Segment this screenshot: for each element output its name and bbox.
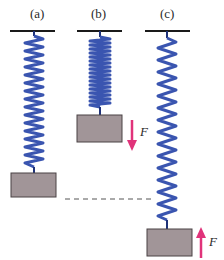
force-label-c: F bbox=[209, 234, 217, 250]
panel-c bbox=[145, 31, 206, 258]
spring-b bbox=[90, 37, 110, 107]
force-arrow-down-icon bbox=[127, 120, 137, 151]
block-c bbox=[147, 229, 192, 256]
force-label-b: F bbox=[140, 124, 148, 140]
block-a bbox=[11, 173, 56, 197]
spring-diagram bbox=[0, 0, 224, 260]
spring-c bbox=[158, 38, 176, 220]
spring-a bbox=[25, 36, 43, 167]
panel-b bbox=[77, 31, 137, 151]
force-arrow-up-icon bbox=[196, 227, 206, 258]
panel-a bbox=[10, 31, 56, 197]
block-b bbox=[77, 115, 122, 142]
